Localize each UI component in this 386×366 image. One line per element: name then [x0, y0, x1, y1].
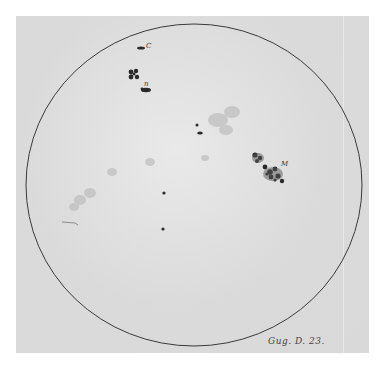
sunspot-lower — [161, 191, 165, 230]
label-c: C — [146, 42, 151, 50]
figure-caption: Gug. D. 23. — [268, 336, 325, 346]
sunspot-c — [137, 46, 145, 49]
solar-disc-drawing — [0, 0, 386, 366]
label-b: n — [144, 80, 149, 88]
sunspot-group-m-penumbra — [252, 153, 283, 181]
ink-marks — [62, 222, 78, 225]
solar-limb-circle — [26, 24, 362, 346]
label-m: M — [281, 160, 288, 168]
sunspot-central — [196, 124, 203, 135]
faculae — [69, 106, 240, 211]
